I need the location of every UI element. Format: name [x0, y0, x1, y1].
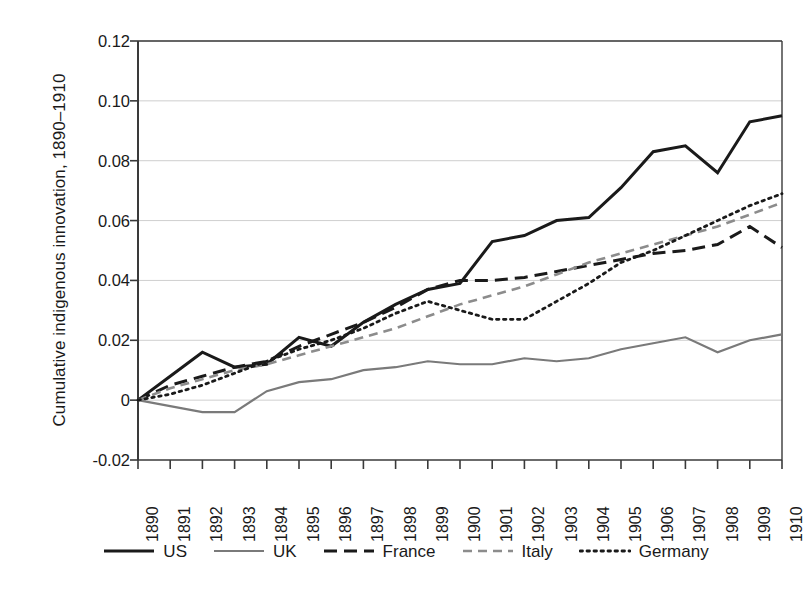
legend-swatch-italy: [462, 545, 514, 557]
legend-swatch-germany: [579, 545, 631, 557]
legend-item-france[interactable]: France: [323, 543, 436, 560]
y-tick-label: 0.08: [70, 153, 130, 170]
legend-label: UK: [273, 543, 297, 560]
y-tick-label: 0.12: [70, 33, 130, 50]
y-tick-label: -0.02: [70, 452, 130, 469]
y-tick-label: 0.06: [70, 213, 130, 230]
legend-item-uk[interactable]: UK: [213, 543, 297, 560]
legend-label: France: [383, 543, 436, 560]
series-line-italy: [138, 203, 782, 401]
legend-swatch-france: [323, 545, 375, 557]
chart-legend: USUKFranceItalyGermany: [0, 534, 812, 568]
legend-swatch-uk: [213, 545, 265, 557]
series-line-germany: [138, 194, 782, 401]
series-line-us: [138, 116, 782, 400]
legend-label: Germany: [639, 543, 709, 560]
legend-label: US: [163, 543, 187, 560]
legend-item-germany[interactable]: Germany: [579, 543, 709, 560]
legend-label: Italy: [522, 543, 553, 560]
legend-item-italy[interactable]: Italy: [462, 543, 553, 560]
chart-container: Cumulative indigenous innovation, 1890–1…: [0, 0, 812, 593]
axes: [138, 41, 782, 460]
legend-item-us[interactable]: US: [103, 543, 187, 560]
y-tick-label: 0.04: [70, 272, 130, 289]
legend-swatch-us: [103, 545, 155, 557]
y-tick-label: 0.10: [70, 93, 130, 110]
x-tick-marks: [138, 460, 782, 469]
y-tick-marks: [130, 41, 138, 460]
gridlines: [138, 41, 782, 400]
y-tick-label: 0.02: [70, 332, 130, 349]
y-tick-label: 0: [70, 392, 130, 409]
y-axis-tick-labels: 0.120.100.080.060.040.020-0.02: [68, 0, 130, 460]
